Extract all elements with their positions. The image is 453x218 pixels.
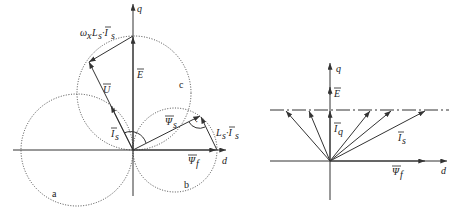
- left-phasor-diagram: · q d E U I s Ψ s Ψ f L s ·I: [13, 3, 239, 206]
- vector-Is-right: [330, 111, 425, 161]
- svg-text:L: L: [91, 27, 98, 38]
- angle-arc-origin: [124, 132, 146, 143]
- svg-text:Ψ: Ψ: [188, 155, 196, 166]
- svg-text:·I: ·I: [226, 127, 233, 138]
- svg-text:s: s: [402, 135, 406, 146]
- svg-text:E: E: [136, 69, 143, 80]
- right-phasor-diagram: q d E I q I s Ψ f: [270, 63, 449, 200]
- label-E: E: [136, 69, 144, 80]
- svg-text:E: E: [333, 88, 340, 99]
- circle-c-label: c: [179, 79, 184, 90]
- svg-text:f: f: [196, 158, 200, 169]
- label-Ls-Is: L s ·I s: [215, 127, 239, 141]
- svg-text:U: U: [103, 84, 111, 95]
- svg-text:Ψ: Ψ: [392, 166, 400, 177]
- svg-text:Ψ: Ψ: [165, 116, 173, 127]
- right-label-Is: I s: [397, 132, 406, 146]
- label-Is: I s: [110, 128, 119, 142]
- d-axis-label: d: [222, 155, 228, 166]
- circle-b-label: b: [184, 179, 189, 190]
- q-axis-label: q: [137, 3, 142, 14]
- svg-text:f: f: [400, 169, 404, 180]
- svg-text:s: s: [235, 130, 239, 141]
- label-Psi-f: Ψ f: [188, 155, 200, 169]
- angle-dot: ·: [195, 116, 198, 127]
- current-vector-2: [309, 111, 330, 161]
- right-label-Psi-f: Ψ f: [392, 166, 404, 180]
- right-label-Iq: I q: [333, 123, 343, 137]
- right-label-E: E: [333, 88, 341, 99]
- svg-text:·I: ·I: [102, 27, 109, 38]
- svg-text:ω: ω: [80, 27, 87, 38]
- svg-text:s: s: [111, 30, 115, 41]
- label-omega-Ls-Is: ω x L s ·I s: [80, 27, 115, 41]
- circle-a-label: a: [52, 188, 57, 199]
- phasor-diagram: · q d E U I s Ψ s Ψ f L s ·I: [0, 0, 453, 218]
- svg-text:L: L: [215, 127, 222, 138]
- current-vector-4: [330, 111, 370, 161]
- vector-Ls-Is: [201, 117, 217, 150]
- svg-text:s: s: [173, 119, 177, 130]
- label-U: U: [103, 84, 111, 95]
- circle-c: [77, 36, 191, 150]
- svg-text:s: s: [115, 131, 119, 142]
- label-Psi-s: Ψ s: [165, 116, 177, 130]
- right-d-label: d: [441, 165, 447, 176]
- current-vector-1: [286, 111, 330, 161]
- right-q-label: q: [336, 63, 341, 74]
- svg-text:q: q: [338, 126, 343, 137]
